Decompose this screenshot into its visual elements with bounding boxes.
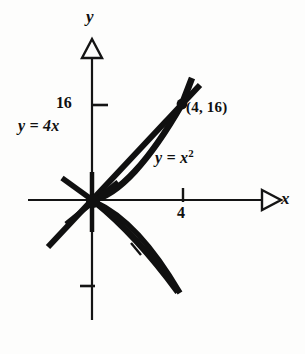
line-equation-label: y = 4x <box>18 118 59 134</box>
math-figure: y x 16 4 y = 4x y = x2 (4, 16) <box>0 0 305 354</box>
x-axis-label: x <box>281 190 290 207</box>
intersection-point-label: (4, 16) <box>186 100 227 115</box>
figure-canvas <box>0 0 305 354</box>
y-axis-label: y <box>86 8 94 25</box>
x-axis-arrowhead-icon <box>262 190 281 210</box>
mirror-branch-outer <box>95 202 178 292</box>
y-tick-label-16: 16 <box>56 95 71 111</box>
parabola-equation-exponent: 2 <box>188 147 194 159</box>
parabola-equation-base: y = x <box>155 149 188 166</box>
x-tick-label-4: 4 <box>177 205 185 221</box>
parabola-equation-label: y = x2 <box>155 148 194 166</box>
y-axis-arrowhead-icon <box>82 39 102 58</box>
